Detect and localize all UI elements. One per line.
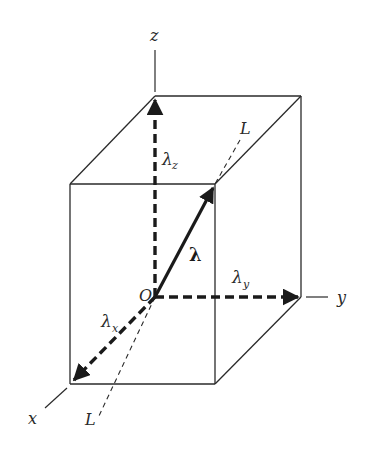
origin-label: O (139, 286, 152, 305)
line-L (98, 140, 240, 418)
svg-text:z: z (171, 159, 178, 172)
lambda-vector (155, 188, 213, 297)
lambda-z-label: λ z (161, 149, 178, 172)
line-L-top-label: L (239, 119, 251, 138)
lambda-vector-label: λ (189, 244, 202, 265)
lambda-y-label: λ y (231, 267, 250, 291)
svg-text:λ: λ (100, 311, 112, 331)
svg-text:y: y (242, 278, 250, 291)
axis-lines (45, 50, 328, 408)
vector-diagram: z y x O L L λ λ z λ y λ x (0, 0, 368, 452)
line-L-bottom-label: L (84, 410, 96, 429)
x-axis-line (45, 388, 67, 408)
svg-text:λ: λ (161, 149, 173, 169)
lambda-x-vector (74, 297, 155, 380)
lambda-x-label: λ x (100, 311, 119, 335)
z-axis-label: z (149, 26, 159, 45)
svg-text:x: x (112, 322, 119, 335)
y-axis-label: y (336, 288, 347, 307)
svg-text:λ: λ (231, 267, 243, 287)
x-axis-label: x (28, 409, 37, 428)
